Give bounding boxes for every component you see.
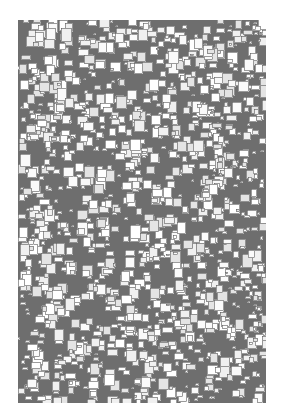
texture-panel — [18, 20, 266, 403]
squares-texture-canvas — [18, 20, 266, 403]
